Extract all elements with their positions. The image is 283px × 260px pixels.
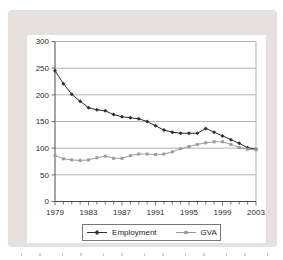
chart-panel: 0501001502002503001979198319871991199519… bbox=[8, 10, 277, 247]
legend-label-gva: GVA bbox=[201, 228, 217, 237]
chart-canvas: 0501001502002503001979198319871991199519… bbox=[27, 35, 266, 243]
svg-text:1983: 1983 bbox=[80, 208, 98, 217]
svg-text:1991: 1991 bbox=[147, 208, 165, 217]
legend-item-gva: GVA bbox=[175, 228, 217, 237]
svg-text:1987: 1987 bbox=[113, 208, 131, 217]
legend-item-employment: Employment bbox=[86, 228, 156, 237]
svg-text:2003: 2003 bbox=[247, 208, 265, 217]
svg-text:1999: 1999 bbox=[214, 208, 232, 217]
gva-line-marker-icon bbox=[175, 228, 197, 237]
svg-text:200: 200 bbox=[36, 91, 50, 100]
employment-line-marker-icon bbox=[86, 228, 108, 237]
svg-text:250: 250 bbox=[36, 64, 50, 73]
svg-text:0: 0 bbox=[45, 197, 50, 206]
legend-label-employment: Employment bbox=[112, 228, 156, 237]
svg-text:150: 150 bbox=[36, 117, 50, 126]
cropped-text-fragment bbox=[12, 252, 270, 257]
svg-text:1979: 1979 bbox=[46, 208, 64, 217]
scanned-chart-page: 0501001502002503001979198319871991199519… bbox=[0, 0, 283, 260]
line-chart: 0501001502002503001979198319871991199519… bbox=[27, 35, 266, 221]
svg-text:1995: 1995 bbox=[180, 208, 198, 217]
svg-text:100: 100 bbox=[36, 144, 50, 153]
svg-text:50: 50 bbox=[40, 171, 49, 180]
chart-legend: Employment GVA bbox=[82, 224, 221, 241]
svg-text:300: 300 bbox=[36, 37, 50, 46]
